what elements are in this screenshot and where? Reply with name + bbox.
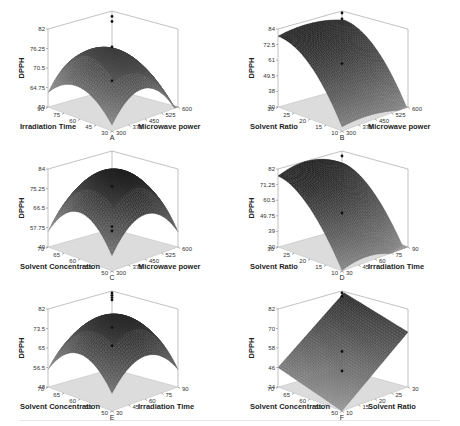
z-tick-label: 70.5: [33, 65, 45, 71]
x-axis-label: Solvent Concentration: [20, 262, 100, 271]
z-tick-label: 38: [268, 88, 275, 94]
x-tick-label: 50: [331, 410, 338, 416]
y-tick-label: 30: [116, 410, 123, 416]
z-axis-label: DPPH: [247, 338, 256, 359]
y-axis-label: Microwave power: [368, 122, 431, 131]
x-tick-label: 20: [299, 258, 306, 264]
y-tick-label: 25: [396, 392, 403, 398]
y-axis-label: Irradiation Time: [368, 262, 424, 271]
panel-b: 8472.56149.53830DPPH30252015103003754505…: [230, 0, 460, 140]
z-tick-label: 84: [38, 166, 45, 172]
design-point: [111, 79, 114, 82]
panel-c: 8475.2566.557.7549DPPH706560555030037545…: [0, 140, 230, 280]
y-tick-label: 300: [346, 130, 357, 136]
x-tick-label: 65: [283, 392, 290, 398]
design-point: [341, 62, 344, 65]
z-tick-label: 49.5: [263, 73, 275, 79]
x-tick-label: 30: [267, 106, 274, 112]
design-point: [341, 155, 344, 158]
z-tick-label: 39: [268, 228, 275, 234]
z-tick-label: 82: [38, 26, 45, 32]
y-axis-label: Solvent Ratio: [368, 402, 416, 411]
y-axis-label: Irradiation Time: [138, 402, 194, 411]
z-tick-label: 66.5: [33, 205, 45, 211]
design-point: [111, 20, 114, 23]
design-point: [341, 370, 344, 373]
y-tick-label: 600: [182, 246, 193, 252]
z-tick-label: 71.25: [260, 182, 276, 188]
y-tick-label: 600: [412, 106, 423, 112]
x-tick-label: 65: [53, 252, 60, 258]
y-tick-label: 525: [396, 112, 407, 118]
y-axis-label: Microwave power: [138, 262, 201, 271]
y-tick-label: 525: [166, 252, 177, 258]
x-axis-label: Solvent Ratio: [250, 122, 298, 131]
z-tick-label: 73.5: [33, 326, 45, 332]
x-tick-label: 20: [299, 118, 306, 124]
design-point: [111, 46, 114, 49]
x-tick-label: 30: [101, 130, 108, 136]
x-tick-label: 50: [101, 410, 108, 416]
z-axis-label: DPPH: [247, 58, 256, 79]
design-point: [111, 15, 114, 18]
surface-plot-e: 8273.56556.548DPPH70656055503045607590So…: [0, 280, 230, 420]
x-tick-label: 15: [315, 264, 322, 270]
x-tick-label: 70: [267, 386, 274, 392]
z-axis-label: DPPH: [17, 58, 26, 79]
y-tick-label: 30: [346, 270, 353, 276]
x-tick-label: 70: [37, 246, 44, 252]
z-tick-label: 72.5: [263, 42, 275, 48]
z-tick-label: 64.75: [30, 85, 46, 91]
design-point: [341, 350, 344, 353]
y-tick-label: 300: [116, 130, 127, 136]
z-tick-label: 82: [38, 306, 45, 312]
x-tick-label: 25: [283, 252, 290, 258]
design-point: [341, 12, 344, 15]
y-tick-label: 600: [182, 106, 193, 112]
y-tick-label: 10: [346, 410, 353, 416]
z-tick-label: 58: [268, 345, 275, 351]
panel-a: 8276.2570.564.7559DPPH907560453030037545…: [0, 0, 230, 140]
z-tick-label: 82: [268, 306, 275, 312]
design-point: [111, 326, 114, 329]
surface-plot-a: 8276.2570.564.7559DPPH907560453030037545…: [0, 0, 230, 140]
figure: 8276.2570.564.7559DPPH907560453030037545…: [0, 0, 460, 426]
z-tick-label: 46: [268, 365, 275, 371]
x-axis-label: Irradiation Time: [20, 122, 76, 131]
design-point: [341, 295, 344, 298]
y-tick-label: 75: [166, 392, 173, 398]
x-axis-label: Solvent Concentration: [20, 402, 100, 411]
x-tick-label: 30: [267, 246, 274, 252]
surface-plot-d: 8271.2560.549.753930DPPH3025201510304560…: [230, 140, 460, 280]
y-tick-label: 525: [166, 112, 177, 118]
z-axis-label: DPPH: [17, 198, 26, 219]
x-tick-label: 15: [315, 124, 322, 130]
x-axis-label: Solvent Ratio: [250, 262, 298, 271]
surface-plot-f: 8270584634DPPH70656055501015202530Solven…: [230, 280, 460, 420]
design-point: [111, 298, 114, 301]
x-tick-label: 65: [53, 392, 60, 398]
surface-plot-b: 8472.56149.53830DPPH30252015103003754505…: [230, 0, 460, 140]
z-tick-label: 49.75: [260, 213, 276, 219]
z-tick-label: 65: [38, 345, 45, 351]
panel-f: 8270584634DPPH70656055501015202530Solven…: [230, 280, 460, 420]
y-tick-label: 75: [396, 252, 403, 258]
design-point: [111, 230, 114, 233]
design-point: [341, 292, 344, 295]
z-tick-label: 76.25: [30, 46, 46, 52]
x-axis-label: Solvent Concentration: [250, 402, 330, 411]
design-point: [111, 225, 114, 228]
x-tick-label: 75: [53, 112, 60, 118]
z-axis-label: DPPH: [17, 338, 26, 359]
y-tick-label: 90: [412, 246, 419, 252]
x-tick-label: 25: [283, 112, 290, 118]
panel-d: 8271.2560.549.753930DPPH3025201510304560…: [230, 140, 460, 280]
z-tick-label: 70: [268, 326, 275, 332]
x-tick-label: 90: [37, 106, 44, 112]
z-tick-label: 82: [268, 166, 275, 172]
x-tick-label: 70: [37, 386, 44, 392]
y-tick-label: 300: [116, 270, 127, 276]
y-tick-label: 90: [182, 386, 189, 392]
y-axis-label: Microwave power: [138, 122, 201, 131]
z-tick-label: 57.75: [30, 225, 46, 231]
